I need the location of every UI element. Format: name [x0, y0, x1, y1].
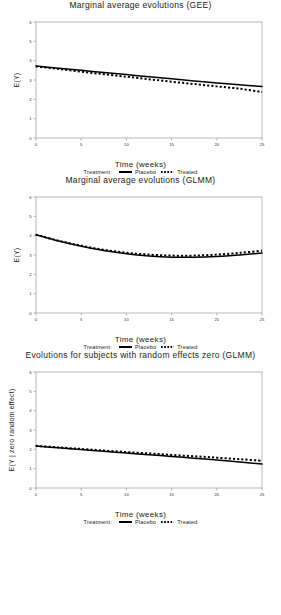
dotted-line-icon [161, 171, 174, 173]
y-tick-label: 3 [29, 253, 32, 258]
plot-area-gee: 01234560510152025E(Y) [0, 10, 281, 160]
chart-panel-glmm-marginal: Marginal average evolutions (GLMM) 01234… [0, 175, 281, 350]
y-tick-label: 6 [29, 370, 32, 375]
xaxis-title-glmm-marginal: Time (weeks) [0, 335, 281, 344]
plot-svg-glmm-marginal: 01234560510152025E(Y) [0, 185, 281, 335]
series-line-treated [36, 66, 262, 92]
plot-svg-glmm-zero-re: 01234560510152025E(Y | zero random effec… [0, 360, 281, 510]
y-tick-label: 2 [29, 272, 32, 277]
legend-text-placebo-glmm-zero-re: Placebo [135, 519, 156, 525]
y-axis-title: E(Y | zero random effect) [8, 389, 16, 472]
legend-glmm-zero-re: Treatment: Placebo Treated [0, 519, 281, 525]
xaxis-title-gee: Time (weeks) [0, 160, 281, 169]
y-tick-label: 1 [29, 466, 32, 471]
x-tick-label: 20 [214, 492, 219, 497]
series-line-placebo [36, 66, 262, 86]
x-tick-label: 10 [124, 492, 129, 497]
y-tick-label: 6 [29, 195, 32, 200]
solid-line-icon [119, 171, 132, 173]
chart-title-glmm-zero-re: Evolutions for subjects with random effe… [0, 350, 281, 360]
y-tick-label: 5 [29, 389, 32, 394]
legend-item-treated-glmm-zero-re: Treated [161, 519, 197, 525]
chart-panel-glmm-zero-re: Evolutions for subjects with random effe… [0, 350, 281, 525]
x-tick-label: 25 [260, 317, 265, 322]
y-tick-label: 2 [29, 447, 32, 452]
x-tick-label: 10 [124, 317, 129, 322]
x-tick-label: 15 [169, 492, 174, 497]
plot-svg-gee: 01234560510152025E(Y) [0, 10, 281, 160]
plot-area-glmm-zero-re: 01234560510152025E(Y | zero random effec… [0, 360, 281, 510]
y-axis-title: E(Y) [13, 248, 21, 263]
y-tick-label: 5 [29, 39, 32, 44]
y-tick-label: 1 [29, 116, 32, 121]
dotted-line-icon [161, 346, 174, 348]
y-tick-label: 4 [29, 58, 32, 63]
plot-frame [36, 372, 262, 488]
xaxis-title-glmm-zero-re: Time (weeks) [0, 510, 281, 519]
y-tick-label: 5 [29, 214, 32, 219]
y-tick-label: 3 [29, 428, 32, 433]
y-tick-label: 0 [29, 136, 32, 141]
plot-area-glmm-marginal: 01234560510152025E(Y) [0, 185, 281, 335]
x-tick-label: 25 [260, 142, 265, 147]
y-tick-label: 0 [29, 311, 32, 316]
x-tick-label: 0 [35, 492, 38, 497]
x-tick-label: 5 [80, 142, 83, 147]
chart-title-gee: Marginal average evolutions (GEE) [0, 0, 281, 10]
y-tick-label: 1 [29, 291, 32, 296]
x-tick-label: 25 [260, 492, 265, 497]
x-tick-label: 5 [80, 492, 83, 497]
x-tick-label: 5 [80, 317, 83, 322]
x-tick-label: 0 [35, 142, 38, 147]
series-line-treated [36, 446, 262, 461]
x-tick-label: 20 [214, 142, 219, 147]
x-tick-label: 0 [35, 317, 38, 322]
y-tick-label: 4 [29, 408, 32, 413]
figure-page: Marginal average evolutions (GEE) 012345… [0, 0, 281, 615]
y-axis-title: E(Y) [13, 73, 21, 88]
y-tick-label: 2 [29, 97, 32, 102]
x-tick-label: 15 [169, 142, 174, 147]
legend-item-placebo-glmm-zero-re: Placebo [119, 519, 156, 525]
solid-line-icon [119, 346, 132, 348]
series-line-treated [36, 235, 262, 256]
y-tick-label: 3 [29, 78, 32, 83]
legend-title-glmm-zero-re: Treatment: [84, 519, 112, 525]
chart-panel-gee: Marginal average evolutions (GEE) 012345… [0, 0, 281, 175]
x-tick-label: 20 [214, 317, 219, 322]
x-tick-label: 10 [124, 142, 129, 147]
chart-title-glmm-marginal: Marginal average evolutions (GLMM) [0, 175, 281, 185]
y-tick-label: 0 [29, 486, 32, 491]
dotted-line-icon [161, 521, 174, 523]
solid-line-icon [119, 521, 132, 523]
y-tick-label: 4 [29, 233, 32, 238]
x-tick-label: 15 [169, 317, 174, 322]
y-tick-label: 6 [29, 20, 32, 25]
legend-text-treated-glmm-zero-re: Treated [177, 519, 197, 525]
